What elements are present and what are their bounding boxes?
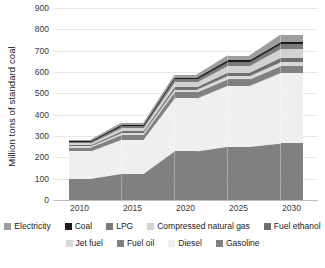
y-tick-label: 400 [35, 110, 49, 120]
stacked-bar-chart: Million tons of standard coal 0100200300… [0, 0, 325, 268]
x-axis-tick-labels: 20102015202020252030 [53, 203, 318, 217]
legend-swatch-icon [65, 223, 72, 230]
connector-band [250, 143, 281, 200]
legend-item[interactable]: Electricity [4, 222, 50, 231]
bar-segment[interactable] [175, 82, 197, 87]
bar-segment[interactable] [281, 66, 303, 73]
bar-segment[interactable] [69, 142, 91, 143]
plot-area [53, 8, 318, 200]
legend-row: ElectricityCoalLPGCompressed natural gas… [0, 222, 325, 231]
bar-segment[interactable] [228, 147, 250, 200]
bar-segment[interactable] [175, 87, 197, 90]
bar-segment[interactable] [69, 148, 91, 152]
bar-segment[interactable] [122, 123, 144, 125]
y-tick-label: 900 [35, 3, 49, 13]
y-tick-label: 500 [35, 88, 49, 98]
legend-label: Gasoline [226, 239, 260, 248]
x-tick-label: 2020 [176, 203, 195, 213]
legend-item[interactable]: Gasoline [216, 239, 260, 248]
bar-segment[interactable] [228, 60, 250, 62]
x-tick-label: 2015 [123, 203, 142, 213]
bar-group[interactable] [122, 8, 144, 200]
bar-group[interactable] [69, 8, 91, 200]
bar-segment[interactable] [122, 135, 144, 140]
legend-item[interactable]: Compressed natural gas [147, 222, 250, 231]
bar-segment[interactable] [175, 79, 197, 82]
y-tick-label: 300 [35, 131, 49, 141]
bar-segment[interactable] [69, 141, 91, 142]
bar-segment[interactable] [175, 151, 197, 200]
legend-swatch-icon [4, 223, 11, 230]
bar-segment[interactable] [69, 146, 91, 147]
bar-segment[interactable] [175, 75, 197, 78]
legend-item[interactable]: Diesel [168, 239, 202, 248]
x-tick-label: 2030 [282, 203, 301, 213]
bar-segment[interactable] [175, 98, 197, 151]
legend-swatch-icon [147, 223, 154, 230]
bar-segment[interactable] [122, 133, 144, 135]
legend-swatch-icon [168, 240, 175, 247]
y-tick-label: 200 [35, 152, 49, 162]
connector-band [197, 147, 228, 200]
bar-segment[interactable] [69, 140, 91, 141]
bar-segment[interactable] [175, 90, 197, 93]
y-tick-label: 600 [35, 67, 49, 77]
bar-segment[interactable] [69, 151, 91, 178]
bar-segment[interactable] [122, 128, 144, 131]
bar-segment[interactable] [122, 131, 144, 133]
bar-segment[interactable] [228, 62, 250, 66]
bar-segment[interactable] [122, 126, 144, 128]
bar-segment[interactable] [69, 145, 91, 146]
bar-group[interactable] [175, 8, 197, 200]
bar-segment[interactable] [122, 125, 144, 126]
bar-segment[interactable] [281, 73, 303, 143]
bar-segment[interactable] [281, 49, 303, 58]
legend-item[interactable]: Coal [65, 222, 92, 231]
bar-segment[interactable] [281, 35, 303, 42]
bar-segment[interactable] [69, 179, 91, 200]
chart-legend: ElectricityCoalLPGCompressed natural gas… [0, 222, 325, 266]
y-tick-label: 800 [35, 24, 49, 34]
legend-item[interactable]: Fuel ethanol [264, 222, 321, 231]
legend-swatch-icon [216, 240, 223, 247]
legend-item[interactable]: Jet fuel [66, 239, 103, 248]
y-axis-title: Million tons of standard coal [0, 0, 22, 212]
bar-segment[interactable] [281, 62, 303, 66]
bar-segment[interactable] [175, 78, 197, 80]
bar-segment[interactable] [228, 66, 250, 73]
legend-row: Jet fuelFuel oilDieselGasoline [0, 239, 325, 248]
bar-segment[interactable] [228, 86, 250, 147]
bar-segment[interactable] [175, 92, 197, 98]
bar-segment[interactable] [69, 143, 91, 145]
bar-segment[interactable] [228, 79, 250, 85]
legend-label: Electricity [14, 222, 50, 231]
bar-segment[interactable] [281, 143, 303, 200]
bar-segment[interactable] [228, 73, 250, 76]
bar-segment[interactable] [281, 42, 303, 44]
bar-group[interactable] [281, 8, 303, 200]
bar-segment[interactable] [122, 174, 144, 200]
legend-swatch-icon [66, 240, 73, 247]
legend-swatch-icon [264, 223, 271, 230]
legend-swatch-icon [117, 240, 124, 247]
bar-segment[interactable] [281, 58, 303, 62]
bar-segment[interactable] [228, 56, 250, 61]
y-tick-label: 700 [35, 46, 49, 56]
y-axis-title-text: Million tons of standard coal [6, 46, 17, 167]
y-axis-tick-labels: 0100200300400500600700800900 [22, 8, 52, 200]
y-tick-label: 100 [35, 174, 49, 184]
legend-label: Coal [75, 222, 92, 231]
bar-group[interactable] [228, 8, 250, 200]
legend-label: Fuel oil [127, 239, 154, 248]
y-tick-label: 0 [44, 195, 49, 205]
legend-label: Diesel [178, 239, 202, 248]
x-tick-label: 2010 [70, 203, 89, 213]
legend-label: Jet fuel [76, 239, 103, 248]
x-tick-label: 2025 [229, 203, 248, 213]
bar-segment[interactable] [122, 140, 144, 174]
legend-label: Compressed natural gas [157, 222, 250, 231]
bar-segment[interactable] [228, 76, 250, 79]
bar-segment[interactable] [281, 44, 303, 49]
legend-item[interactable]: Fuel oil [117, 239, 154, 248]
legend-item[interactable]: LPG [106, 222, 133, 231]
